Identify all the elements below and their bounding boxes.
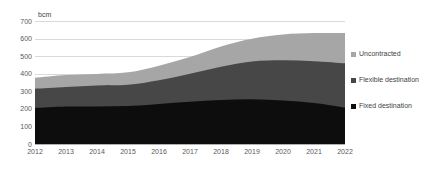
legend-item[interactable]: Fixed destination (351, 102, 412, 110)
y-axis-tick-label: 200 (20, 105, 32, 112)
y-axis: 0100200300400500600700 (0, 0, 34, 169)
axis-baseline (35, 144, 345, 145)
x-axis-tick-label: 2020 (270, 147, 296, 156)
y-axis-tick-label: 600 (20, 35, 32, 42)
stacked-area-chart: bcm 0100200300400500600700 2012201320142… (0, 0, 434, 169)
x-axis-tick-label: 2014 (84, 147, 110, 156)
y-axis-tick-label: 400 (20, 70, 32, 77)
x-axis-tick-label: 2013 (53, 147, 79, 156)
legend-item[interactable]: Uncontracted (351, 50, 401, 58)
x-axis-tick-label: 2017 (177, 147, 203, 156)
x-axis-tick-label: 2012 (22, 147, 48, 156)
legend-label: Uncontracted (359, 50, 401, 58)
area-series-group (35, 21, 345, 144)
x-axis-tick-label: 2018 (208, 147, 234, 156)
y-axis-tick-label: 700 (20, 18, 32, 25)
x-axis-tick-label: 2021 (301, 147, 327, 156)
plot-area (35, 21, 345, 144)
legend-label: Fixed destination (359, 102, 412, 110)
x-axis-tick-label: 2019 (239, 147, 265, 156)
legend-swatch-icon (351, 52, 356, 57)
x-axis-tick-label: 2016 (146, 147, 172, 156)
y-axis-tick-label: 300 (20, 88, 32, 95)
legend-item[interactable]: Flexible destination (351, 76, 419, 84)
x-axis-tick-label: 2022 (332, 147, 358, 156)
legend-label: Flexible destination (359, 76, 419, 84)
y-axis-tick-label: 100 (20, 123, 32, 130)
x-axis: 2012201320142015201620172018201920202021… (35, 147, 345, 161)
y-axis-tick-label: 500 (20, 53, 32, 60)
x-axis-tick-label: 2015 (115, 147, 141, 156)
legend-swatch-icon (351, 78, 356, 83)
legend-swatch-icon (351, 104, 356, 109)
